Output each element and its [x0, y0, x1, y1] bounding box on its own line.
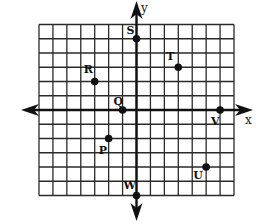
plotted-points: STRQPVUW: [84, 24, 224, 200]
point-dot: [202, 163, 210, 171]
point-dot: [133, 192, 141, 200]
point-dot: [216, 106, 224, 114]
point-label: Q: [114, 95, 124, 108]
x-axis-label: x: [245, 113, 252, 127]
point-label: P: [99, 144, 107, 157]
point-label: R: [84, 63, 94, 76]
y-axis-label: y: [140, 1, 148, 15]
point-u: U: [193, 163, 210, 182]
point-label: S: [127, 24, 135, 37]
coordinate-plane-figure: x y STRQPVUW: [0, 0, 266, 224]
point-label: V: [210, 115, 220, 128]
coordinate-plane-svg: x y STRQPVUW: [0, 0, 266, 224]
point-label: W: [123, 179, 137, 192]
point-dot: [91, 78, 99, 86]
point-label: U: [193, 169, 203, 182]
point-dot: [105, 135, 113, 143]
point-dot: [174, 63, 182, 71]
point-s: S: [127, 24, 141, 43]
point-label: T: [166, 50, 175, 63]
